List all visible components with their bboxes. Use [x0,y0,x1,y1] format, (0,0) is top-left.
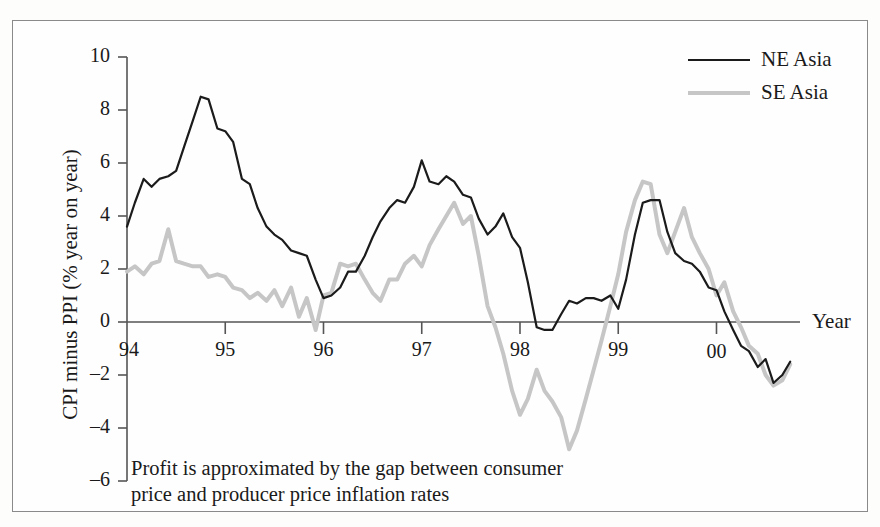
legend-item-ne-asia: NE Asia [688,43,832,76]
caption-line-2: price and producer price inflation rates [131,481,601,507]
chart-figure: CPI minus PPI (% year on year) 1086420–2… [0,0,880,527]
legend-swatch-se-asia-icon [688,91,750,95]
figure-caption: Profit is approximated by the gap betwee… [131,455,601,507]
legend-label-se-asia: SE Asia [761,80,828,105]
y-tick-label: 2 [66,256,110,279]
x-tick-label: 96 [301,338,345,361]
y-tick-label: 0 [66,309,110,332]
y-tick-label: 4 [66,203,110,226]
legend-label-ne-asia: NE Asia [761,47,832,72]
axis-ticks [118,57,716,481]
y-tick-label: 10 [66,44,110,67]
y-tick-label: 8 [66,97,110,120]
legend-item-se-asia: SE Asia [688,76,832,109]
y-tick-label: 6 [66,150,110,173]
x-tick-label: 94 [119,338,163,361]
x-tick-label: 00 [694,340,738,363]
x-tick-label: 99 [596,338,640,361]
x-tick-label: 98 [498,338,542,361]
y-tick-label: –2 [66,362,110,385]
caption-line-1: Profit is approximated by the gap betwee… [131,455,601,481]
x-axis-label: Year [812,309,851,334]
x-tick-label: 97 [400,338,444,361]
y-tick-label: –6 [66,468,110,491]
legend: NE Asia SE Asia [688,43,832,109]
series-line-se-asia [127,182,790,450]
y-tick-label: –4 [66,415,110,438]
x-tick-label: 95 [203,338,247,361]
legend-swatch-ne-asia-icon [688,59,750,61]
